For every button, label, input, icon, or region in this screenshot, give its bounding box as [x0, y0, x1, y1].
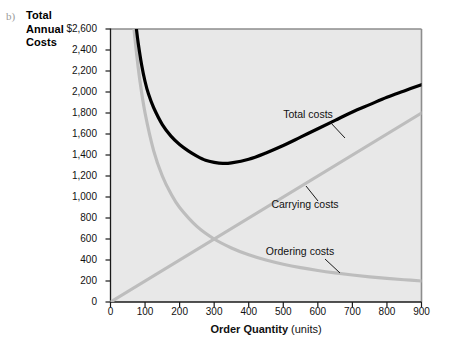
- y-axis-tick-label: 200: [47, 276, 97, 286]
- y-axis-tick-label: 2,400: [47, 45, 97, 55]
- x-axis-title-rest: (units): [288, 323, 322, 335]
- y-axis-tick-label: 1,800: [47, 108, 97, 118]
- y-axis-tick-label: 1,400: [47, 150, 97, 160]
- y-axis-tick-labels: 02004006008001,0001,2001,4001,6001,8002,…: [47, 0, 97, 346]
- figure-part-label: b): [6, 10, 15, 22]
- x-axis-tick-label: 900: [402, 306, 442, 317]
- x-axis-title-strong: Order Quantity: [210, 323, 288, 335]
- y-axis-tick-label: 1,600: [47, 129, 97, 139]
- y-axis-tick-label: 800: [47, 213, 97, 223]
- y-axis-tick-label: 2,200: [47, 66, 97, 76]
- y-axis-tick-label: 1,000: [47, 192, 97, 202]
- y-axis-tick-label: 1,200: [47, 171, 97, 181]
- annotation-carrying-costs: Carrying costs: [271, 198, 338, 210]
- y-axis-tick-label: 0: [47, 297, 97, 307]
- annotation-ordering-costs: Ordering costs: [266, 245, 334, 257]
- y-axis-tick-label: 400: [47, 255, 97, 265]
- annotation-total-costs: Total costs: [283, 108, 333, 120]
- y-axis-tick-label: 2,000: [47, 87, 97, 97]
- y-axis-tick-label: $2,600: [47, 24, 97, 34]
- chart-figure: b) Total Annual Costs 02004006008001,000…: [0, 0, 456, 346]
- x-axis-title: Order Quantity (units): [110, 323, 422, 335]
- y-axis-tick-label: 600: [47, 234, 97, 244]
